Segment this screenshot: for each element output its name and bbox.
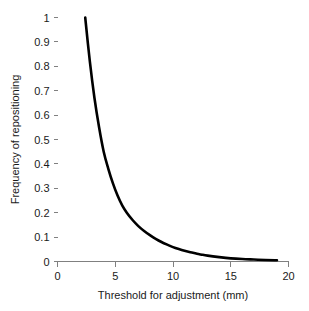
x-axis-tick-labels: 05101520 bbox=[54, 270, 294, 282]
x-tick-label: 0 bbox=[54, 270, 60, 282]
y-tick-label: 0.6 bbox=[34, 109, 49, 121]
frequency-decay-line-chart: 00.10.20.30.40.50.60.70.80.91 05101520 T… bbox=[0, 0, 309, 311]
y-axis-title: Frequency of repositioning bbox=[9, 75, 21, 205]
x-axis-tick-marks bbox=[58, 262, 289, 267]
y-tick-label: 0.5 bbox=[34, 134, 49, 146]
y-tick-label: 0 bbox=[43, 256, 49, 268]
x-axis-title: Threshold for adjustment (mm) bbox=[98, 289, 248, 301]
chart-figure: 00.10.20.30.40.50.60.70.80.91 05101520 T… bbox=[0, 0, 309, 311]
y-axis-tick-marks bbox=[54, 18, 58, 262]
y-tick-label: 0.8 bbox=[34, 60, 49, 72]
y-tick-label: 0.2 bbox=[34, 207, 49, 219]
x-tick-label: 20 bbox=[282, 270, 294, 282]
x-tick-label: 5 bbox=[112, 270, 118, 282]
y-tick-label: 0.7 bbox=[34, 85, 49, 97]
x-tick-label: 15 bbox=[225, 270, 237, 282]
x-tick-label: 10 bbox=[167, 270, 179, 282]
y-tick-label: 0.9 bbox=[34, 36, 49, 48]
y-axis-tick-labels: 00.10.20.30.40.50.60.70.80.91 bbox=[34, 12, 49, 268]
y-tick-label: 0.1 bbox=[34, 231, 49, 243]
y-tick-label: 1 bbox=[43, 12, 49, 24]
data-curve-frequency bbox=[85, 18, 277, 261]
y-tick-label: 0.4 bbox=[34, 158, 49, 170]
y-tick-label: 0.3 bbox=[34, 182, 49, 194]
